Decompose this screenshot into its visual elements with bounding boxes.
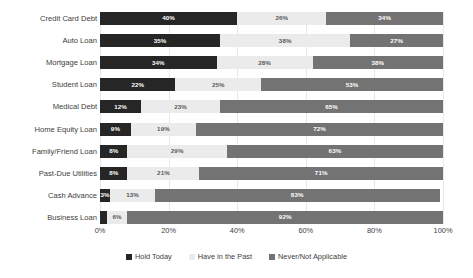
bar-segment-value: 35% xyxy=(154,38,167,44)
bar-segment[interactable]: 22% xyxy=(100,78,175,91)
bar-segment[interactable]: 26% xyxy=(237,12,326,25)
bar-segment[interactable] xyxy=(100,211,107,224)
x-axis-tick-label: 100% xyxy=(434,226,453,235)
chart-legend: Hold TodayHave in the PastNever/Not Appl… xyxy=(0,252,473,261)
bar-segment-value: 26% xyxy=(275,15,288,21)
bar-segment-value: 63% xyxy=(329,148,342,154)
bar-segment-value: 83% xyxy=(291,192,304,198)
bar-segment[interactable]: 34% xyxy=(326,12,443,25)
bar-segment[interactable]: 71% xyxy=(199,167,443,180)
legend-label: Never/Not Applicable xyxy=(278,252,347,261)
bar-segment-value: 22% xyxy=(131,82,144,88)
bar-segment-value: 72% xyxy=(313,126,326,132)
bar-segment[interactable]: 13% xyxy=(110,189,155,202)
bar-segment[interactable]: 63% xyxy=(227,145,443,158)
bar-segment-value: 34% xyxy=(378,15,391,21)
bar-row[interactable]: 9%19%72% xyxy=(100,123,443,136)
category-label: Auto Loan xyxy=(0,34,97,47)
bar-segment[interactable]: 9% xyxy=(100,123,131,136)
x-axis-tick-label: 60% xyxy=(298,226,313,235)
bar-segment-value: 12% xyxy=(114,104,127,110)
category-axis-labels: Credit Card DebtAuto LoanMortgage LoanSt… xyxy=(0,12,97,224)
bar-segment-value: 25% xyxy=(212,82,225,88)
bar-segment-value: 28% xyxy=(258,60,271,66)
bar-segment-value: 34% xyxy=(152,60,165,66)
legend-swatch-icon xyxy=(269,254,275,260)
bar-segment-value: 40% xyxy=(162,15,175,21)
bar-row[interactable]: 8%29%63% xyxy=(100,145,443,158)
legend-label: Hold Today xyxy=(135,252,172,261)
legend-swatch-icon xyxy=(126,254,132,260)
category-label: Home Equity Loan xyxy=(0,123,97,136)
x-axis-tick-label: 40% xyxy=(230,226,245,235)
legend-item[interactable]: Never/Not Applicable xyxy=(269,252,347,261)
plot-area: 40%26%34%35%38%27%34%28%38%22%25%53%12%2… xyxy=(100,12,443,224)
bar-row[interactable]: 35%38%27% xyxy=(100,34,443,47)
bar-segment[interactable]: 8% xyxy=(100,167,127,180)
bar-segment[interactable]: 23% xyxy=(141,100,220,113)
legend-label: Have in the Past xyxy=(198,252,252,261)
category-label: Family/Friend Loan xyxy=(0,145,97,158)
bar-segment[interactable]: 27% xyxy=(350,34,443,47)
bar-segment-value: 23% xyxy=(174,104,187,110)
bar-segment[interactable]: 34% xyxy=(100,56,217,69)
bar-segment-value: 13% xyxy=(126,192,139,198)
bar-segment[interactable]: 3% xyxy=(100,189,110,202)
x-axis-ticks: 0%20%40%60%80%100% xyxy=(100,226,443,240)
bar-segment[interactable]: 29% xyxy=(127,145,226,158)
bar-segment-value: 27% xyxy=(390,38,403,44)
bar-segment-value: 19% xyxy=(157,126,170,132)
bar-segment[interactable]: 28% xyxy=(217,56,313,69)
bar-segment[interactable]: 65% xyxy=(220,100,443,113)
bar-segment-value: 21% xyxy=(157,170,170,176)
x-axis-tick-label: 20% xyxy=(161,226,176,235)
bar-segment[interactable]: 6% xyxy=(107,211,128,224)
bar-segment-value: 65% xyxy=(325,104,338,110)
bar-segment[interactable]: 8% xyxy=(100,145,127,158)
bar-segment[interactable]: 38% xyxy=(313,56,443,69)
stacked-bar-chart: Credit Card DebtAuto LoanMortgage LoanSt… xyxy=(0,0,473,278)
gridline xyxy=(443,12,444,224)
bar-row[interactable]: 6%92% xyxy=(100,211,443,224)
x-axis-tick-label: 0% xyxy=(95,226,106,235)
bar-segment[interactable]: 25% xyxy=(175,78,261,91)
bar-segment[interactable]: 35% xyxy=(100,34,220,47)
bar-row[interactable]: 12%23%65% xyxy=(100,100,443,113)
category-label: Cash Advance xyxy=(0,189,97,202)
bar-segment-value: 8% xyxy=(109,148,118,154)
legend-item[interactable]: Have in the Past xyxy=(189,252,252,261)
bar-row[interactable]: 8%21%71% xyxy=(100,167,443,180)
bar-segment-value: 3% xyxy=(101,192,110,198)
bar-segment[interactable]: 21% xyxy=(127,167,199,180)
legend-swatch-icon xyxy=(189,254,195,260)
bar-segment-value: 92% xyxy=(279,214,292,220)
bar-segment[interactable]: 40% xyxy=(100,12,237,25)
category-label: Medical Debt xyxy=(0,100,97,113)
bar-segment[interactable]: 92% xyxy=(127,211,443,224)
category-label: Credit Card Debt xyxy=(0,12,97,25)
bar-segment-value: 38% xyxy=(371,60,384,66)
bar-segment-value: 29% xyxy=(171,148,184,154)
bar-segment[interactable]: 72% xyxy=(196,123,443,136)
bar-segment[interactable]: 83% xyxy=(155,189,440,202)
bar-row[interactable]: 22%25%53% xyxy=(100,78,443,91)
bar-segment[interactable]: 38% xyxy=(220,34,350,47)
bar-segment[interactable]: 12% xyxy=(100,100,141,113)
bar-segment-value: 71% xyxy=(315,170,328,176)
x-axis-tick-label: 80% xyxy=(367,226,382,235)
category-label: Business Loan xyxy=(0,211,97,224)
bar-segment[interactable]: 53% xyxy=(261,78,443,91)
bar-segment-value: 38% xyxy=(279,38,292,44)
bar-row[interactable]: 40%26%34% xyxy=(100,12,443,25)
bar-row[interactable]: 3%13%83% xyxy=(100,189,443,202)
bar-segment[interactable]: 19% xyxy=(131,123,196,136)
category-label: Past-Due Utilities xyxy=(0,167,97,180)
legend-item[interactable]: Hold Today xyxy=(126,252,172,261)
category-label: Student Loan xyxy=(0,78,97,91)
bar-segment-value: 53% xyxy=(346,82,359,88)
bar-segment-value: 8% xyxy=(109,170,118,176)
bar-segment-value: 6% xyxy=(113,214,122,220)
category-label: Mortgage Loan xyxy=(0,56,97,69)
bar-rows: 40%26%34%35%38%27%34%28%38%22%25%53%12%2… xyxy=(100,12,443,224)
bar-row[interactable]: 34%28%38% xyxy=(100,56,443,69)
